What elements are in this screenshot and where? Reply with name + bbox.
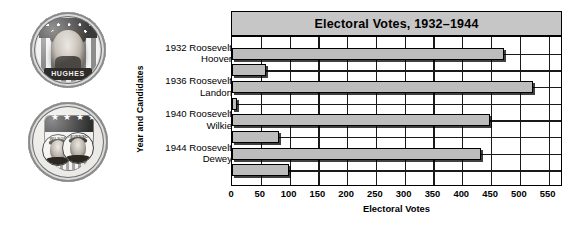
- bar-chart: Year and Candidates 1932 RooseveltHoover…: [118, 0, 570, 227]
- category-group-1940: 1940 RooseveltWilkie: [136, 108, 232, 131]
- row-divider: [232, 104, 561, 105]
- bar-1940-roosevelt: [232, 114, 490, 126]
- category-labels: 1932 RooseveltHoover1936 RooseveltLandon…: [136, 38, 232, 183]
- plot-grid: [231, 36, 562, 186]
- x-tick-label-300: 300: [396, 188, 412, 199]
- hughes-name-plate: HUGHES: [44, 68, 93, 80]
- bar-landon: [232, 98, 237, 110]
- x-tick-label-400: 400: [453, 188, 469, 199]
- bar-1944-roosevelt: [232, 148, 481, 160]
- x-tick-label-450: 450: [482, 188, 498, 199]
- bar-1936-roosevelt: [232, 81, 533, 93]
- category-label-winner: 1940 Roosevelt: [136, 108, 232, 120]
- category-label-opponent: Hoover: [136, 53, 232, 65]
- x-tick-label-200: 200: [338, 188, 354, 199]
- x-tick-label-250: 250: [367, 188, 383, 199]
- x-tick-label-500: 500: [511, 188, 527, 199]
- chart-title: Electoral Votes, 1932–1944: [231, 11, 562, 36]
- category-group-1936: 1936 RooseveltLandon: [136, 75, 232, 98]
- category-label-opponent: Landon: [136, 87, 232, 99]
- hughes-pin-face: HUGHES: [30, 12, 106, 88]
- gridline-500: [520, 37, 521, 185]
- category-label-winner: 1944 Roosevelt: [136, 142, 232, 154]
- category-group-1944: 1944 RooseveltDewey: [136, 142, 232, 165]
- x-tick-label-350: 350: [425, 188, 441, 199]
- category-label-opponent: Wilkie: [136, 120, 232, 132]
- bar-hoover: [232, 64, 266, 76]
- x-axis-title: Electoral Votes: [231, 203, 562, 214]
- bar-1932-roosevelt: [232, 48, 504, 60]
- right-portrait: STEVENSON: [62, 132, 94, 164]
- category-label-opponent: Dewey: [136, 153, 232, 165]
- hughes-campaign-button: HUGHES: [30, 12, 106, 88]
- x-tick-label-50: 50: [255, 188, 265, 199]
- category-label-winner: 1936 Roosevelt: [136, 75, 232, 87]
- plot-region: Electoral Votes, 1932–1944 0501001502002…: [231, 11, 562, 186]
- dual-portrait-campaign-button: ★ ★ ★ ★ ★ WILSON STEVENSON: [28, 102, 108, 182]
- row-divider: [232, 70, 561, 71]
- bar-wilkie: [232, 131, 279, 143]
- x-axis-ticks: 050100150200250300350400450500550: [231, 188, 562, 202]
- category-group-1932: 1932 RooseveltHoover: [136, 42, 232, 65]
- stars-row: ★ ★ ★ ★ ★: [37, 111, 99, 126]
- x-tick-label-150: 150: [310, 188, 326, 199]
- x-tick-label-0: 0: [228, 188, 233, 199]
- row-divider: [232, 137, 561, 138]
- campaign-button-images: HUGHES ★ ★ ★ ★ ★ WILSON STEVENSON: [8, 4, 114, 220]
- x-tick-label-100: 100: [281, 188, 297, 199]
- x-tick-label-550: 550: [540, 188, 556, 199]
- right-portrait-body: [65, 155, 90, 163]
- gridline-550: [549, 37, 550, 185]
- category-label-winner: 1932 Roosevelt: [136, 42, 232, 54]
- bar-dewey: [232, 164, 289, 176]
- duo-pin-face: ★ ★ ★ ★ ★ WILSON STEVENSON: [33, 107, 103, 177]
- electoral-votes-figure: HUGHES ★ ★ ★ ★ ★ WILSON STEVENSON: [0, 0, 570, 227]
